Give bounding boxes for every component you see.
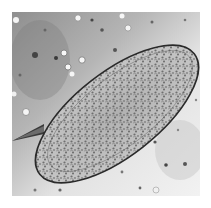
egg-illustration bbox=[12, 12, 200, 196]
microscopy-image: Grayscale light-microscope image of an e… bbox=[12, 12, 200, 196]
